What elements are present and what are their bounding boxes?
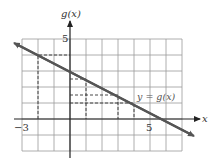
x-axis-label: x (202, 113, 208, 124)
guide-1-2.5 (70, 79, 86, 119)
y-tick-5: 5 (62, 33, 68, 44)
graph-canvas: g(x) x −3 5 5 y = g(x) (0, 0, 218, 166)
guide-3-1.5 (70, 95, 118, 119)
curve-label: y = g(x) (136, 91, 176, 102)
y-axis-label: g(x) (61, 8, 81, 19)
x-tick-5: 5 (146, 122, 152, 133)
x-tick-neg3: −3 (14, 122, 29, 133)
